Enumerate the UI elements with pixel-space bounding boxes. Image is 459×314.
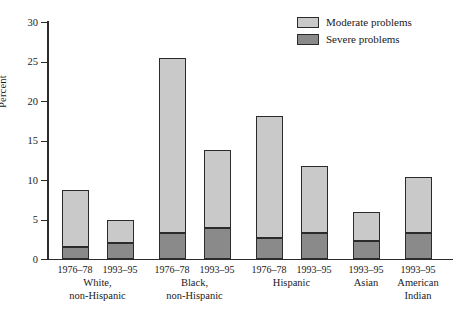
bar-3 xyxy=(204,150,231,259)
bar-0 xyxy=(62,190,89,259)
bar-segment-severe xyxy=(159,233,186,259)
y-tick-5: 5 xyxy=(41,220,48,221)
y-tick-mark xyxy=(41,259,48,260)
group-label-line2: non-Hispanic xyxy=(166,290,223,303)
bar-2 xyxy=(159,58,186,259)
y-tick-label: 15 xyxy=(28,136,39,147)
bar-segment-severe xyxy=(353,241,380,259)
bar-segment-severe xyxy=(405,233,432,259)
x-group-label-1: Black,non-Hispanic xyxy=(166,277,223,302)
x-group-label-0: White,non-Hispanic xyxy=(69,277,126,302)
bar-segment-moderate xyxy=(301,166,328,233)
y-axis-title: Percent xyxy=(0,75,8,108)
x-tick-label-7: 1993–95 xyxy=(401,264,436,276)
group-label-line1: American xyxy=(397,277,438,290)
bar-segment-severe xyxy=(62,247,89,259)
y-tick-0: 0 xyxy=(41,259,48,260)
group-label-line2: non-Hispanic xyxy=(69,290,126,303)
legend-item-moderate: Moderate problems xyxy=(297,16,412,28)
y-tick-mark xyxy=(41,220,48,221)
bar-segment-moderate xyxy=(256,116,283,238)
bar-4 xyxy=(256,116,283,259)
legend-swatch-severe xyxy=(297,34,319,45)
y-tick-mark xyxy=(41,101,48,102)
x-tick-label-4: 1976–78 xyxy=(252,264,287,276)
bar-segment-severe xyxy=(301,233,328,259)
legend-swatch-moderate xyxy=(297,17,319,28)
bar-segment-moderate xyxy=(62,190,89,247)
y-tick-30: 30 xyxy=(41,22,48,23)
y-tick-label: 25 xyxy=(28,57,39,68)
bar-segment-moderate xyxy=(204,150,231,228)
y-tick-20: 20 xyxy=(41,101,48,102)
y-tick-label: 10 xyxy=(28,175,39,186)
x-tick-label-1: 1993–95 xyxy=(103,264,138,276)
chart-legend: Moderate problemsSevere problems xyxy=(297,16,412,50)
legend-label: Severe problems xyxy=(326,34,400,45)
x-tick-label-2: 1976–78 xyxy=(155,264,190,276)
bar-1 xyxy=(107,220,134,259)
y-tick-mark xyxy=(41,180,48,181)
bar-chart-figure: Percent 051015202530 1976–781993–951976–… xyxy=(0,0,459,314)
x-group-label-2: Hispanic xyxy=(273,277,310,290)
y-tick-label: 5 xyxy=(33,215,38,226)
bar-7 xyxy=(405,177,432,259)
group-label-line1: White, xyxy=(69,277,126,290)
group-label-line1: Asian xyxy=(354,277,379,290)
bar-segment-moderate xyxy=(107,220,134,243)
legend-item-severe: Severe problems xyxy=(297,33,412,45)
x-tick-label-0: 1976–78 xyxy=(58,264,93,276)
group-label-line1: Black, xyxy=(166,277,223,290)
x-tick-label-6: 1993–95 xyxy=(349,264,384,276)
y-tick-mark xyxy=(41,22,48,23)
bar-segment-moderate xyxy=(353,212,380,241)
y-tick-mark xyxy=(41,62,48,63)
plot-area xyxy=(48,22,453,259)
bar-segment-moderate xyxy=(159,58,186,233)
x-group-label-4: AmericanIndian xyxy=(397,277,438,302)
x-tick-label-5: 1993–95 xyxy=(297,264,332,276)
y-tick-label: 20 xyxy=(28,96,39,107)
y-tick-10: 10 xyxy=(41,180,48,181)
y-tick-label: 30 xyxy=(28,17,39,28)
legend-label: Moderate problems xyxy=(326,17,412,28)
x-group-label-3: Asian xyxy=(354,277,379,290)
bar-segment-moderate xyxy=(405,177,432,233)
bar-segment-severe xyxy=(204,228,231,259)
y-tick-mark xyxy=(41,141,48,142)
group-label-line2: Indian xyxy=(397,290,438,303)
y-tick-15: 15 xyxy=(41,141,48,142)
y-tick-25: 25 xyxy=(41,62,48,63)
bar-segment-severe xyxy=(256,238,283,259)
bar-segment-severe xyxy=(107,243,134,259)
y-tick-label: 0 xyxy=(33,254,38,265)
bar-5 xyxy=(301,166,328,259)
x-tick-label-3: 1993–95 xyxy=(200,264,235,276)
bar-6 xyxy=(353,212,380,259)
group-label-line1: Hispanic xyxy=(273,277,310,290)
